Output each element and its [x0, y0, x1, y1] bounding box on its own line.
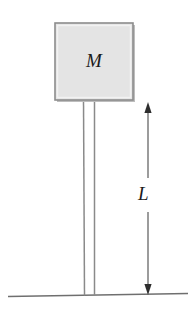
mass-label: M	[0, 50, 192, 72]
vertical-rod	[84, 99, 95, 296]
length-label: L	[138, 183, 149, 205]
rod-left-edge	[84, 99, 85, 296]
physics-diagram-figure: M L	[0, 0, 196, 313]
diagram-canvas	[0, 0, 196, 313]
dimension-up-arrowhead	[144, 102, 151, 113]
dimension-down-arrowhead	[144, 284, 151, 295]
ground-line	[8, 294, 188, 297]
